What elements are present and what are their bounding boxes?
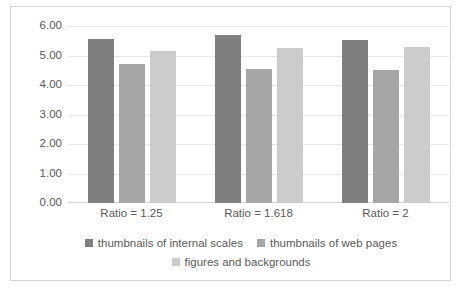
legend-label: figures and backgrounds [185,256,311,268]
y-axis-tick-label: 2.00 [40,138,62,150]
bar [215,35,241,203]
x-axis-category-label: Ratio = 1.25 [68,207,195,219]
legend-item[interactable]: figures and backgrounds [172,256,311,268]
x-axis-category-label: Ratio = 2 [322,207,449,219]
bar [373,70,399,203]
bar [150,51,176,203]
legend-label: thumbnails of internal scales [98,237,243,249]
chart-frame: 6.005.004.003.002.001.000.00 Ratio = 1.2… [10,6,451,281]
y-axis-tick-label: 3.00 [40,109,62,121]
bar-group [322,26,449,203]
bar-group [195,26,322,203]
y-axis-tick-label: 6.00 [40,20,62,32]
legend-swatch-icon [257,239,265,247]
bar [342,40,368,203]
legend-swatch-icon [85,239,93,247]
legend-row: thumbnails of internal scalesthumbnails … [31,237,451,249]
legend-swatch-icon [172,258,180,266]
x-axis-category-label: Ratio = 1.618 [195,207,322,219]
chart-legend: thumbnails of internal scalesthumbnails … [31,237,451,275]
legend-row: figures and backgrounds [31,256,451,268]
chart-screenshot: 6.005.004.003.002.001.000.00 Ratio = 1.2… [0,0,462,291]
bar [88,39,114,203]
bar [119,64,145,203]
legend-item[interactable]: thumbnails of web pages [257,237,397,249]
y-axis-tick-label: 4.00 [40,79,62,91]
legend-item[interactable]: thumbnails of internal scales [85,237,243,249]
y-axis-tick-label: 1.00 [40,168,62,180]
bar [404,47,430,203]
bar-group [68,26,195,203]
x-axis-category-labels: Ratio = 1.25Ratio = 1.618Ratio = 2 [68,207,449,219]
bar [277,48,303,203]
bar-groups [68,26,449,203]
y-axis-tick-label: 5.00 [40,50,62,62]
legend-label: thumbnails of web pages [270,237,397,249]
y-axis-tick-labels: 6.005.004.003.002.001.000.00 [29,26,62,203]
bar [246,69,272,203]
y-axis-tick-label: 0.00 [40,197,62,209]
